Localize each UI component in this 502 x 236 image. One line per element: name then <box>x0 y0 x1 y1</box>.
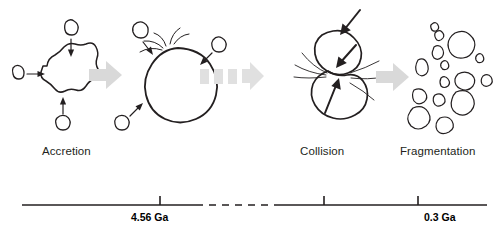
collision-ejecta-right-3 <box>350 83 374 100</box>
collision-arrowhead-inner-up <box>331 78 340 90</box>
accretion-incoming-body-top <box>65 20 79 35</box>
connector-2-arrowhead <box>242 62 264 90</box>
collision-ejecta-left-3 <box>294 77 326 78</box>
accretion-arrow-group <box>27 39 74 114</box>
timeline-label-456ga: 4.56 Ga <box>131 211 168 223</box>
fragment-8 <box>481 75 492 87</box>
collision-lower-body <box>311 71 367 119</box>
stage-label-accretion: Accretion <box>42 145 91 157</box>
connector-arrow-3 <box>376 63 409 91</box>
stage-collision <box>294 10 383 119</box>
collision-impact-arrow-group <box>325 10 360 113</box>
accretion-arrowhead-top <box>68 50 74 58</box>
fragment-12 <box>408 107 430 129</box>
ejecta-curve-4 <box>170 28 180 44</box>
collision-upper-body <box>315 31 362 75</box>
connector-2-dash-2 <box>214 69 223 84</box>
timeline <box>22 196 487 205</box>
collision-arrow-inner-up <box>325 83 337 113</box>
melting-incoming-body-top <box>133 22 149 38</box>
stage-accretion <box>13 20 99 130</box>
fragment-7 <box>455 72 475 90</box>
ejecta-curve-5 <box>174 34 189 44</box>
fragment-9 <box>413 89 427 104</box>
connector-2-dash-1 <box>200 69 209 84</box>
fragment-6 <box>440 77 450 88</box>
stage-label-collision: Collision <box>300 145 344 157</box>
accretion-incoming-body-left <box>13 65 25 79</box>
fragment-4 <box>416 59 429 76</box>
fragment-1 <box>435 31 444 41</box>
collision-ejecta-right-1 <box>350 61 379 73</box>
fragment-2 <box>448 31 475 58</box>
fragment-11 <box>451 91 474 115</box>
connector-2-dash-3 <box>228 69 237 84</box>
fragment-14 <box>476 54 484 63</box>
accretion-arrowhead-bottom <box>60 97 66 105</box>
timeline-label-03ga: 0.3 Ga <box>424 211 456 223</box>
melting-incoming-body-right <box>212 37 227 52</box>
stage-melting <box>115 22 227 130</box>
fragment-10 <box>433 94 445 106</box>
fragment-3 <box>432 46 443 60</box>
asteroid-evolution-diagram: Accretion Collision Fragmentation 4.56 G… <box>0 0 502 236</box>
connector-arrow-2 <box>200 62 264 90</box>
connector-arrow-1 <box>89 61 122 89</box>
stage-label-fragmentation: Fragmentation <box>400 145 475 157</box>
fragment-15 <box>431 23 439 31</box>
melting-incoming-body-bottomleft <box>115 115 130 130</box>
diagram-canvas <box>0 0 502 236</box>
ejecta-curve-1 <box>154 33 166 46</box>
stage-fragmentation <box>408 23 493 134</box>
fragment-5 <box>441 61 449 70</box>
accretion-incoming-body-bottom <box>56 115 70 130</box>
fragment-13 <box>436 117 453 134</box>
